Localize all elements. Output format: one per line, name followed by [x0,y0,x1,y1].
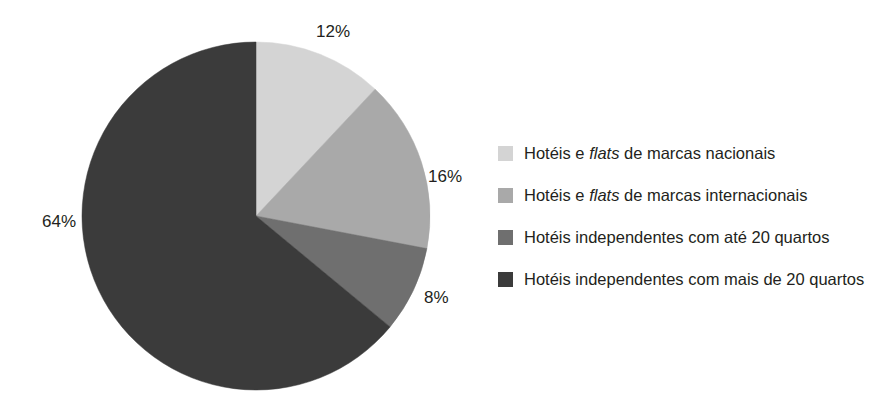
legend-swatch-marcas-internacionais [498,188,513,203]
legend-swatch-marcas-nacionais [498,146,513,161]
legend-item[interactable]: Hotéis e flats de marcas internacionais [498,174,888,216]
legend-label-emphasis: flats [589,186,619,204]
legend-item[interactable]: Hotéis independentes com mais de 20 quar… [498,258,888,300]
slice-data-label-marcas-nacionais: 12% [316,22,350,42]
pie-svg [0,0,500,418]
legend-item-label: Hotéis independentes com até 20 quartos [524,229,829,246]
legend-label-emphasis: flats [589,144,619,162]
legend-item[interactable]: Hotéis independentes com até 20 quartos [498,216,888,258]
chart-legend: Hotéis e flats de marcas nacionaisHotéis… [498,132,888,300]
legend-swatch-mais-de-20-quartos [498,272,513,287]
legend-item-label: Hotéis e flats de marcas internacionais [524,187,807,204]
legend-item-label: Hotéis independentes com mais de 20 quar… [524,271,864,288]
pie-chart-figure: 12% 16% 8% 64% Hotéis e flats de marcas … [0,0,893,418]
slice-data-label-marcas-internacionais: 16% [428,167,462,187]
legend-item[interactable]: Hotéis e flats de marcas nacionais [498,132,888,174]
pie-slice-group [82,42,430,390]
legend-item-label: Hotéis e flats de marcas nacionais [524,145,775,162]
slice-data-label-ate-20-quartos: 8% [424,288,449,308]
pie-plot-area: 12% 16% 8% 64% [0,0,500,418]
legend-swatch-ate-20-quartos [498,230,513,245]
slice-data-label-mais-de-20-quartos: 64% [42,212,76,232]
